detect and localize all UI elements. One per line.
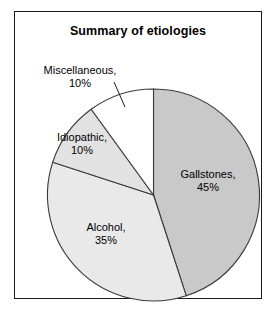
pie-label-idiopathic: Idiopathic, 10% [39, 131, 125, 157]
pie-label-alcohol-name: Alcohol, [63, 221, 149, 234]
pie-label-idiopathic-value: 10% [39, 144, 125, 157]
pie-label-gallstones-value: 45% [165, 181, 251, 194]
pie-label-idiopathic-name: Idiopathic, [39, 131, 125, 144]
chart-frame: Summary of etiologies Miscellaneous, 10%… [14, 11, 262, 299]
pie-label-miscellaneous-value: 10% [21, 77, 139, 90]
pie-label-alcohol: Alcohol, 35% [63, 221, 149, 247]
pie-label-gallstones: Gallstones, 45% [165, 168, 251, 194]
pie-label-alcohol-value: 35% [63, 234, 149, 247]
pie-label-gallstones-name: Gallstones, [165, 168, 251, 181]
pie-label-miscellaneous-name: Miscellaneous, [21, 64, 139, 77]
pie-chart-graphic [15, 12, 273, 316]
pie-label-miscellaneous: Miscellaneous, 10% [21, 64, 139, 90]
chart-title: Summary of etiologies [15, 24, 261, 38]
